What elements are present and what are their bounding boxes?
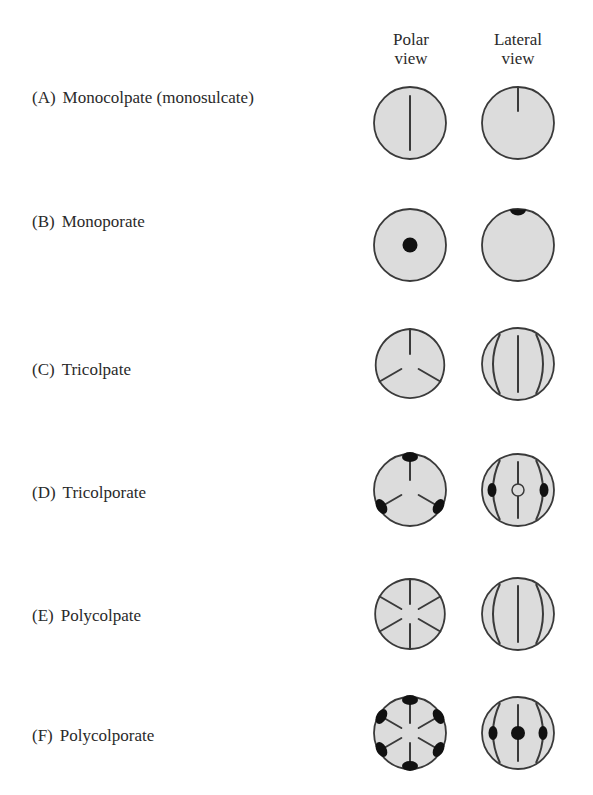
polar-grain-polycolpate: [375, 579, 445, 649]
polar-grain-polycolporate: [373, 695, 447, 771]
grain-outline: [482, 209, 554, 281]
lateral-grain-polycolpate: [482, 578, 554, 650]
lateral-grain-tricolporate: [482, 454, 554, 526]
pore-dot: [489, 726, 498, 740]
pore-dot: [403, 238, 418, 253]
lateral-grain-polycolporate: [482, 697, 554, 769]
pore-dot: [402, 452, 418, 462]
pollen-aperture-figure: [0, 0, 593, 795]
polar-grain-tricolpate: [376, 329, 445, 398]
pore-dot: [402, 695, 418, 705]
pore-dot: [511, 726, 525, 740]
pore-dot: [539, 726, 548, 740]
pore-dot: [402, 761, 418, 771]
lateral-grain-monocolpate: [482, 87, 554, 159]
pore-dot: [540, 483, 549, 497]
pore-dot: [488, 483, 497, 497]
polar-grain-monoporate: [374, 209, 446, 281]
polar-grain-monocolpate: [374, 87, 446, 159]
pore-ring: [512, 484, 524, 496]
lateral-grain-monoporate: [482, 209, 554, 281]
lateral-grain-tricolpate: [482, 328, 554, 400]
polar-grain-tricolporate: [373, 452, 447, 526]
